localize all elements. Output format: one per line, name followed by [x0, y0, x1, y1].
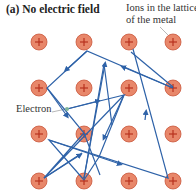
ion-icon	[76, 34, 92, 50]
ion-icon	[121, 80, 137, 96]
electron-path	[44, 49, 173, 180]
diagram-no-electric-field: (a) No electric field Ions in the lattic…	[0, 0, 196, 195]
ion-icon	[31, 34, 47, 50]
ion-icon	[121, 173, 137, 189]
ion-icon	[121, 34, 137, 50]
electron-dot	[65, 107, 69, 111]
ion-icon	[31, 80, 47, 96]
ion-icon	[76, 80, 92, 96]
ion-icon	[31, 173, 47, 189]
ion-icon	[121, 126, 137, 142]
ion-icon	[31, 126, 47, 142]
ion-icon	[165, 126, 181, 142]
lattice-diagram	[0, 0, 196, 195]
ion-icon	[165, 34, 181, 50]
ions-leader-line	[160, 27, 168, 35]
